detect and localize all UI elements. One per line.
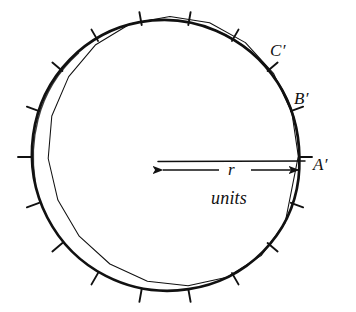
circle-diagram-svg — [0, 0, 356, 312]
vertex-label-b-prime: B′ — [294, 89, 309, 109]
vertex-label-a-prime: A′ — [313, 155, 328, 175]
figure-background — [0, 0, 356, 312]
units-word-label: units — [211, 188, 247, 209]
radius-symbol-label: r — [228, 160, 235, 180]
figure-container: A′ B′ C′ r units — [0, 0, 356, 312]
vertex-label-c-prime: C′ — [270, 41, 286, 61]
